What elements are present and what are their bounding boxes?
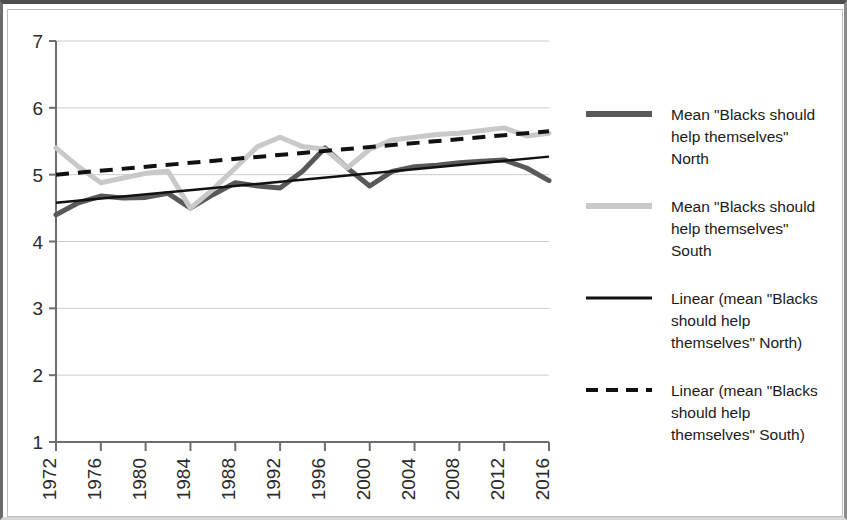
series-line-0 [56, 148, 549, 215]
legend-label-0[interactable]: Mean "Blacks should [671, 106, 815, 123]
x-tick-label-2008: 2008 [442, 458, 463, 500]
y-tick-label-6: 6 [32, 98, 43, 119]
legend-label-0[interactable]: North [671, 150, 709, 167]
figure-frame: 7654321197219761980198419881992199620002… [0, 0, 847, 520]
x-tick-label-1988: 1988 [218, 458, 239, 500]
legend-label-3[interactable]: Linear (mean "Blacks [671, 382, 818, 399]
trendline-0 [56, 157, 549, 203]
x-tick-label-1976: 1976 [84, 458, 105, 500]
x-tick-label-1980: 1980 [129, 458, 150, 500]
y-tick-label-3: 3 [32, 298, 43, 319]
legend-label-1[interactable]: South [671, 242, 712, 259]
legend-label-1[interactable]: Mean "Blacks should [671, 198, 815, 215]
x-tick-label-1992: 1992 [263, 458, 284, 500]
x-tick-label-1996: 1996 [308, 458, 329, 500]
legend-label-3[interactable]: themselves" South) [671, 426, 805, 443]
y-tick-label-7: 7 [32, 31, 43, 52]
line-chart: 7654321197219761980198419881992199620002… [8, 10, 844, 518]
x-tick-label-2012: 2012 [487, 458, 508, 500]
y-tick-label-2: 2 [32, 365, 43, 386]
x-tick-label-2000: 2000 [353, 458, 374, 500]
x-tick-label-1984: 1984 [173, 458, 194, 501]
y-tick-label-1: 1 [32, 432, 43, 453]
legend-label-0[interactable]: help themselves" [671, 128, 789, 145]
legend-label-3[interactable]: should help [671, 404, 750, 421]
x-tick-label-1972: 1972 [39, 458, 60, 500]
y-tick-label-5: 5 [32, 165, 43, 186]
y-tick-label-4: 4 [32, 232, 43, 253]
x-tick-label-2004: 2004 [398, 458, 419, 501]
legend-label-1[interactable]: help themselves" [671, 220, 789, 237]
figure-inner-border: 7654321197219761980198419881992199620002… [7, 9, 843, 517]
x-tick-label-2016: 2016 [532, 458, 553, 500]
legend-label-2[interactable]: themselves" North) [671, 334, 802, 351]
legend-label-2[interactable]: Linear (mean "Blacks [671, 290, 818, 307]
legend-label-2[interactable]: should help [671, 312, 750, 329]
